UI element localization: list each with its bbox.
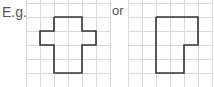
- grid-figures: [0, 0, 214, 87]
- right-grid: [128, 0, 213, 87]
- left-grid: [26, 0, 111, 87]
